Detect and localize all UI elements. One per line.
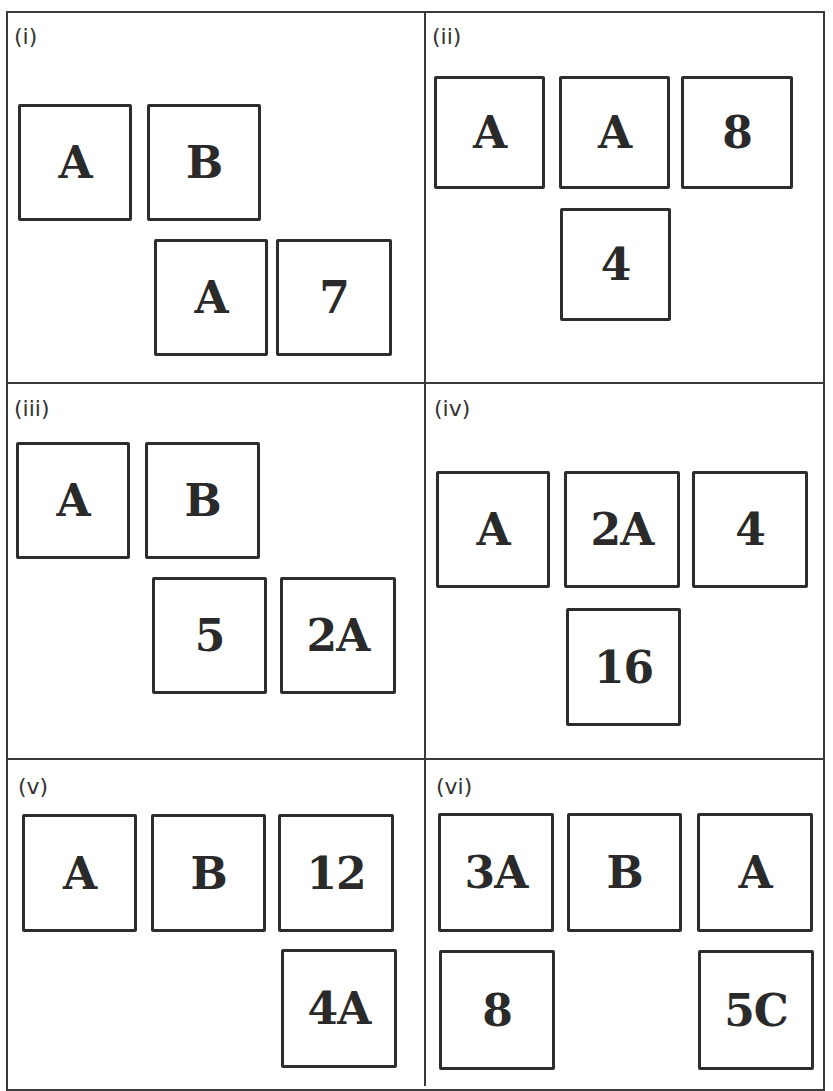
letter-card: A — [18, 104, 132, 221]
letter-card: A — [16, 442, 130, 559]
letter-card: B — [567, 813, 682, 932]
letter-card: 4A — [281, 949, 397, 1068]
panel-label: (ii) — [432, 26, 461, 48]
panel-label: (vi) — [436, 776, 472, 798]
letter-card: B — [151, 814, 266, 932]
letter-card: A — [22, 814, 137, 932]
letter-card: 5C — [698, 950, 814, 1070]
letter-card: 2A — [280, 577, 396, 694]
panel-label: (v) — [18, 776, 48, 798]
letter-card: A — [154, 239, 268, 356]
letter-card: 4 — [692, 471, 808, 588]
letter-card: A — [559, 76, 670, 189]
letter-card: 12 — [278, 814, 394, 932]
letter-card: 16 — [566, 608, 681, 726]
horizontal-divider-2 — [6, 758, 825, 760]
letter-card: B — [145, 442, 260, 559]
vertical-divider — [424, 11, 426, 1086]
letter-card: A — [434, 76, 545, 189]
letter-card: 2A — [564, 471, 680, 588]
letter-card: 8 — [439, 950, 555, 1070]
letter-card: B — [147, 104, 261, 221]
letter-card: A — [697, 813, 813, 932]
letter-card: 8 — [681, 76, 793, 189]
panel-label: (iii) — [14, 398, 50, 420]
panel-label: (iv) — [434, 398, 470, 420]
panel-label: (i) — [14, 26, 37, 48]
letter-card: 7 — [276, 239, 392, 356]
letter-card: 4 — [560, 208, 671, 321]
horizontal-divider-1 — [6, 382, 825, 384]
letter-card: 3A — [438, 813, 554, 932]
letter-card: 5 — [152, 577, 267, 694]
letter-card: A — [436, 471, 550, 588]
